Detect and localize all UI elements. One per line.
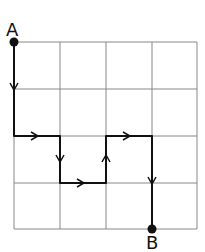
start-point [10, 38, 19, 47]
grid-diagram [0, 0, 205, 252]
end-point [148, 225, 157, 234]
